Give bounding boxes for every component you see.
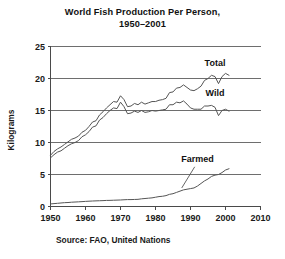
chart-plot-area: 0510152025 1950196019701980199020002010 …: [0, 0, 285, 259]
x-tick-label-1960: 1960: [75, 213, 95, 223]
series-line-total: [51, 73, 230, 155]
y-tick-label-0: 0: [40, 202, 45, 212]
y-tick-label-5: 5: [40, 170, 45, 180]
chart-figure: World Fish Production Per Person, 1950–2…: [0, 0, 285, 259]
y-tick-label-10: 10: [35, 138, 45, 148]
tick-marks: [48, 47, 261, 211]
series-annotations: TotalWildFarmed: [181, 58, 225, 188]
series-label-total: Total: [205, 58, 226, 68]
data-series: [51, 73, 230, 204]
x-tick-label-1950: 1950: [40, 213, 60, 223]
y-tick-label-20: 20: [35, 74, 45, 84]
axis-lines: [51, 47, 261, 207]
y-axis-title: Kilograms: [6, 109, 16, 150]
series-label-farmed: Farmed: [181, 154, 214, 164]
series-label-wild: Wild: [206, 88, 225, 98]
y-axis-tick-labels: 0510152025: [35, 42, 45, 212]
x-axis-tick-labels: 1950196019701980199020002010: [40, 213, 270, 223]
x-tick-label-1980: 1980: [145, 213, 165, 223]
series-line-wild: [51, 101, 230, 158]
farmed-leader-line: [182, 167, 195, 188]
gridlines: [51, 47, 261, 175]
x-tick-label-2000: 2000: [215, 213, 235, 223]
source-note: Source: FAO, United Nations: [56, 235, 170, 245]
x-tick-label-1990: 1990: [180, 213, 200, 223]
x-tick-label-1970: 1970: [110, 213, 130, 223]
x-tick-label-2010: 2010: [250, 213, 270, 223]
y-tick-label-15: 15: [35, 106, 45, 116]
y-tick-label-25: 25: [35, 42, 45, 52]
